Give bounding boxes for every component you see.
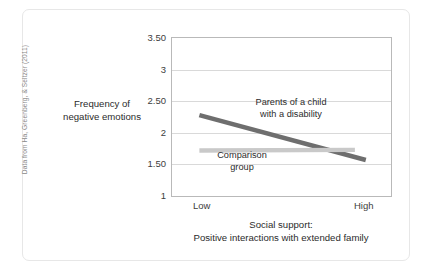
annotation-comparison-line1: Comparison xyxy=(196,149,288,161)
annotation-parents-of-child-with-disability: Parents of a child with a disability xyxy=(236,96,346,120)
x-axis-title: Social support: Positive interactions wi… xyxy=(141,218,421,244)
annotation-treatment-line1: Parents of a child xyxy=(236,96,346,108)
plot-area: Parents of a child with a disability Com… xyxy=(171,37,392,197)
y-axis-tick-label: 3 xyxy=(161,63,166,74)
y-axis-tick-label: 2 xyxy=(161,126,166,137)
figure-container: Data from Ha, Greenberg, & Seltzer (2011… xyxy=(0,0,422,272)
y-axis-tick-labels: 3.5032.5021.501 xyxy=(120,37,166,197)
x-axis-tick-labels: LowHigh xyxy=(171,200,392,214)
x-axis-title-line1: Social support: xyxy=(141,218,421,231)
source-credit: Data from Ha, Greenberg, & Seltzer (2011… xyxy=(21,40,28,180)
y-axis-tick-label: 1 xyxy=(161,190,166,201)
annotation-comparison-group: Comparison group xyxy=(196,149,288,173)
y-axis-tick-label: 3.50 xyxy=(148,32,167,43)
x-axis-tick-label: Low xyxy=(193,200,210,211)
annotation-comparison-line2: group xyxy=(196,161,288,173)
y-axis-tick-label: 2.50 xyxy=(148,95,167,106)
x-axis-title-line2: Positive interactions with extended fami… xyxy=(141,231,421,244)
annotation-treatment-line2: with a disability xyxy=(236,108,346,120)
y-axis-tick-label: 1.50 xyxy=(148,158,167,169)
x-axis-tick-label: High xyxy=(354,200,374,211)
